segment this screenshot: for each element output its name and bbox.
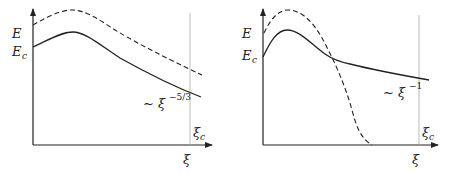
- right-x-label: ξ: [412, 152, 420, 167]
- left-label-Ec: E: [11, 44, 22, 59]
- right-label-Ec: E: [241, 48, 252, 63]
- right-label-Ec-sub: c: [252, 55, 257, 65]
- left-scaling-label: ~ ξ: [143, 96, 166, 111]
- diagram-canvas: E E c ~ ξ −5/3 ξ c ξ E E c ~ ξ −1 ξ c ξ: [0, 0, 452, 173]
- right-dashed-curve: [264, 10, 372, 145]
- left-scaling-exponent: −5/3: [169, 92, 191, 102]
- left-dashed-curve: [33, 10, 202, 75]
- right-scaling-label: ~ ξ: [383, 85, 406, 100]
- left-label-E: E: [11, 26, 22, 41]
- right-scaling-exponent: −1: [409, 81, 422, 91]
- left-label-Ec-sub: c: [22, 51, 27, 61]
- right-solid-curve: [263, 30, 429, 80]
- right-label-E: E: [241, 26, 252, 41]
- left-panel: E E c ~ ξ −5/3 ξ c ξ: [11, 9, 212, 167]
- left-x-label: ξ: [183, 152, 191, 167]
- left-solid-curve: [33, 32, 201, 97]
- right-panel: E E c ~ ξ −1 ξ c ξ: [241, 9, 438, 167]
- left-xi-c-sub: c: [200, 132, 205, 142]
- right-xi-c-sub: c: [429, 132, 434, 142]
